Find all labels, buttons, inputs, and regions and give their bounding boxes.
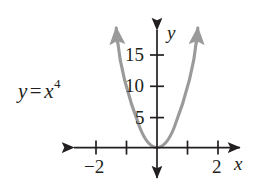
x-axis-label: x	[234, 153, 242, 175]
y-axis	[150, 30, 164, 178]
equation-lhs: y	[18, 79, 28, 103]
y-tick-label-15: 15	[125, 44, 144, 66]
equation-operator: =	[28, 79, 44, 103]
x-tick-label-2: 2	[212, 156, 222, 178]
curve-left-arrow	[116, 28, 117, 42]
graph-figure: y=x4 15 10 5 −2 2 y x	[0, 0, 256, 196]
x-tick-label-minus-2: −2	[84, 156, 104, 178]
equation-exponent: 4	[54, 76, 61, 91]
equation-annotation: y=x4	[18, 78, 61, 104]
curve-right-arrow	[197, 28, 198, 42]
y-axis-label: y	[167, 22, 175, 44]
y-tick-label-10: 10	[125, 75, 144, 97]
y-tick-label-5: 5	[135, 107, 145, 129]
equation-base: x	[44, 79, 54, 103]
